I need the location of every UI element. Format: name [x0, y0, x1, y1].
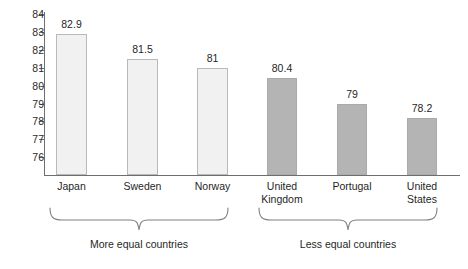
bar — [267, 78, 297, 175]
y-tick-label: 79 — [16, 99, 44, 109]
y-tick-label-wrap: 78 — [0, 116, 44, 126]
y-tick-label-wrap: 77 — [0, 134, 44, 144]
y-tick-label: 83 — [16, 27, 44, 37]
category-label-line: Sweden — [108, 180, 178, 193]
bar-value-label: 82.9 — [42, 19, 102, 30]
category-label-line: United — [247, 180, 317, 193]
y-tick-label: 77 — [16, 134, 44, 144]
bar-value-label: 79 — [322, 89, 382, 100]
category-label: Portugal — [317, 180, 387, 193]
y-tick-label-wrap: 84 — [0, 9, 44, 19]
bar-value-label: 78.2 — [392, 103, 452, 114]
category-label: UnitedStates — [387, 180, 457, 205]
category-label-line: Norway — [178, 180, 248, 193]
bar — [127, 59, 158, 175]
group-caption-less-equal: Less equal countries — [258, 238, 438, 250]
bar-value-label: 80.4 — [252, 63, 312, 74]
y-tick-label-wrap: 83 — [0, 27, 44, 37]
y-tick-label: 76 — [16, 152, 44, 162]
group-caption-more-equal: More equal countries — [49, 238, 229, 250]
y-tick-label-wrap: 79 — [0, 99, 44, 109]
y-tick-label: 82 — [16, 45, 44, 55]
x-axis-line — [44, 175, 460, 176]
y-tick-label: 84 — [16, 9, 44, 19]
category-label-line: United — [387, 180, 457, 193]
y-tick-label: 78 — [16, 116, 44, 126]
category-label: UnitedKingdom — [247, 180, 317, 205]
bar — [197, 68, 228, 175]
category-label: Sweden — [108, 180, 178, 193]
y-tick-label-wrap: 76 — [0, 152, 44, 162]
bar-value-label: 81 — [183, 53, 243, 64]
y-tick-label: 80 — [16, 81, 44, 91]
category-label-line: Japan — [37, 180, 107, 193]
group-brace-less-equal — [257, 206, 439, 232]
bar-value-label: 81.5 — [113, 44, 173, 55]
y-tick-label-wrap: 82 — [0, 45, 44, 55]
y-tick-label-wrap: 81 — [0, 63, 44, 73]
category-label: Japan — [37, 180, 107, 193]
bar — [337, 104, 367, 176]
category-label-line: Kingdom — [247, 193, 317, 206]
y-tick-label: 81 — [16, 63, 44, 73]
bar — [407, 118, 437, 175]
category-label: Norway — [178, 180, 248, 193]
category-label-line: Portugal — [317, 180, 387, 193]
bar-chart: 848382818079787776 82.9Japan81.5Sweden81… — [0, 0, 468, 269]
y-axis-line — [44, 12, 45, 176]
group-brace-more-equal — [48, 206, 230, 232]
bar — [56, 34, 87, 175]
y-tick-label-wrap: 80 — [0, 81, 44, 91]
category-label-line: States — [387, 193, 457, 206]
plot-area: 848382818079787776 82.9Japan81.5Sweden81… — [0, 0, 468, 269]
